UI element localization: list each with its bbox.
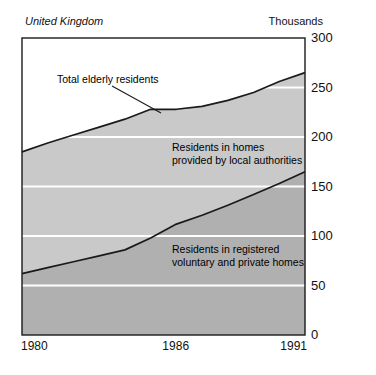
y-tick-label-200: 200 [311,130,333,143]
series-label-total-elderly-residents: Total elderly residents [57,73,159,86]
y-tick-label-50: 50 [311,279,325,292]
x-tick-label-1980: 1980 [21,340,48,352]
y-tick-label-150: 150 [311,180,333,193]
annotation-leader-line [112,86,161,113]
unit-label: Thousands [248,15,323,27]
y-tick-label-300: 300 [311,31,333,44]
chart-figure: United Kingdom Thousands 300250200150100… [0,0,376,375]
region-label: United Kingdom [25,15,103,27]
series-label-voluntary-private-homes: Residents in registered voluntary and pr… [172,243,304,268]
series-label-local-authorities: Residents in homes provided by local aut… [172,141,302,166]
y-tick-label-100: 100 [311,229,333,242]
stacked-area-bands [22,73,305,335]
x-tick-label-1991: 1991 [280,340,307,352]
x-tick-label-1986: 1986 [162,340,189,352]
y-tick-label-250: 250 [311,81,333,94]
y-tick-label-0: 0 [311,328,318,341]
